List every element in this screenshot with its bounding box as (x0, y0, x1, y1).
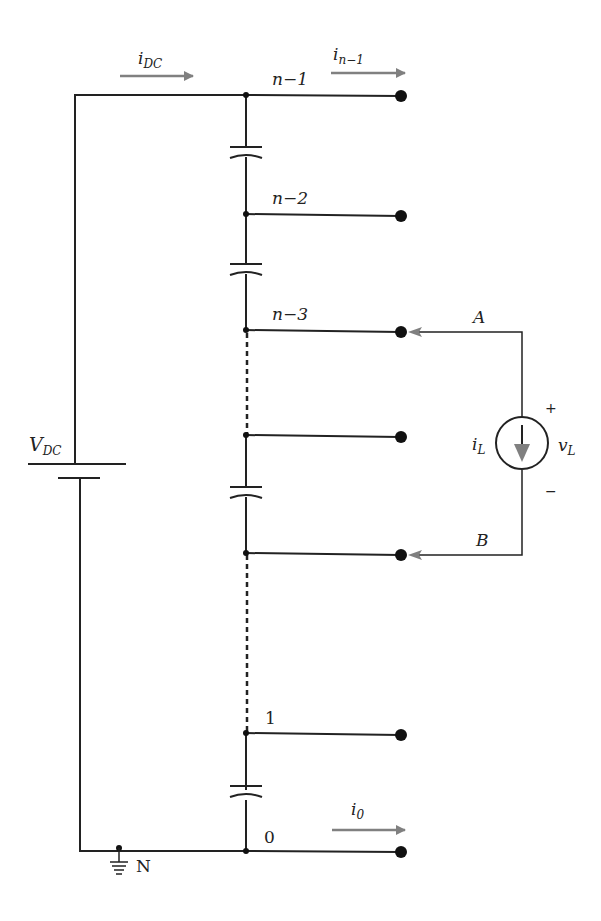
junction-dots (116, 92, 249, 854)
terminal-dots (395, 90, 407, 858)
dc-voltage-source-icon (28, 464, 126, 478)
terminal-label-b: B (476, 532, 489, 549)
polarity-minus: − (545, 484, 557, 498)
terminal-label-a: A (473, 309, 485, 326)
label-i-dc: iDC (138, 50, 162, 70)
current-arrow-icons (120, 73, 405, 830)
label-v-l: vL (558, 437, 576, 457)
terminal-lower (395, 549, 407, 561)
label-v-dc: VDC (29, 435, 62, 457)
node-label-n-2: n−2 (272, 190, 308, 207)
label-i-l: iL (472, 436, 485, 456)
circuit-diagram (0, 0, 601, 921)
node-label-n-1: n−1 (272, 71, 308, 88)
terminal-0 (395, 846, 407, 858)
dc-source-loop (75, 95, 246, 851)
node-label-n-3: n−3 (272, 306, 308, 323)
terminal-mid (395, 431, 407, 443)
capacitor-icon (230, 264, 262, 275)
capacitor-icon (230, 147, 262, 158)
ground-label-n: N (136, 858, 151, 875)
terminal-n-2 (395, 210, 407, 222)
node-label-1: 1 (265, 710, 276, 727)
current-source-icon (496, 417, 548, 469)
node-label-0: 0 (264, 829, 275, 846)
terminal-n-3 (395, 326, 407, 338)
terminal-1 (395, 729, 407, 741)
label-i-0: i0 (351, 801, 364, 821)
label-i-n-1: in−1 (333, 46, 364, 66)
load-input-arrow-icon (408, 327, 422, 560)
polarity-plus: + (545, 401, 557, 415)
terminal-n-1 (395, 90, 407, 102)
node-wires (246, 95, 400, 852)
capacitor-icon (230, 487, 262, 498)
